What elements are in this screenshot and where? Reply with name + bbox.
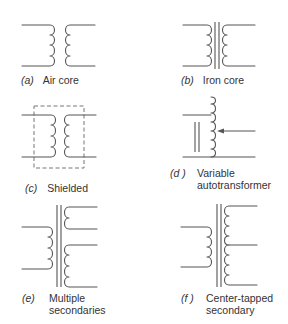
caption-tag: (e)	[22, 292, 49, 304]
caption-text-line1: Center-tapped	[206, 292, 273, 304]
caption-text-line1: Multiple	[49, 292, 85, 304]
caption-text: Iron core	[203, 74, 244, 86]
wiper-arrow-icon	[217, 129, 255, 134]
primary-winding	[22, 25, 55, 66]
secondary-winding-1	[65, 207, 98, 229]
air-core-transformer-symbol	[22, 25, 95, 66]
caption-a: (a) Air core	[21, 74, 79, 86]
iron-core	[215, 22, 219, 69]
caption-text-line2: autotransformer	[170, 179, 271, 191]
iron-core-transformer-symbol	[183, 22, 255, 69]
caption-tag: (d )	[170, 167, 197, 179]
variable-autotransformer-symbol	[183, 97, 255, 157]
caption-c: (c) Shielded	[25, 182, 88, 194]
multiple-secondaries-transformer-symbol	[22, 205, 97, 287]
caption-e: (e)Multiple secondaries	[22, 292, 106, 316]
secondary-winding	[223, 25, 256, 66]
caption-text-line1: Variable	[197, 167, 235, 179]
caption-text: Shielded	[47, 182, 88, 194]
iron-core	[57, 205, 61, 287]
primary-winding	[22, 115, 56, 157]
caption-text: Air core	[43, 74, 79, 86]
primary-winding	[181, 227, 212, 267]
secondary-winding-2	[65, 245, 98, 287]
shielded-transformer-symbol	[22, 106, 96, 168]
center-tapped-secondary-winding	[225, 206, 258, 285]
caption-tag: (f )	[181, 292, 206, 304]
caption-tag: (b)	[181, 74, 194, 86]
iron-core	[195, 122, 199, 152]
caption-tag: (c)	[25, 182, 37, 194]
primary-winding	[22, 227, 53, 269]
winding	[211, 97, 216, 157]
transformer-symbols-diagram	[0, 0, 288, 324]
caption-tag: (a)	[21, 74, 34, 86]
caption-d: (d )Variable autotransformer	[170, 167, 271, 191]
secondary-winding	[66, 25, 96, 66]
center-tapped-transformer-symbol	[181, 204, 257, 287]
caption-b: (b) Iron core	[181, 74, 244, 86]
secondary-winding	[65, 115, 97, 157]
iron-core	[217, 204, 221, 287]
caption-f: (f )Center-tapped secondary	[181, 292, 273, 316]
caption-text-line2: secondary	[181, 304, 273, 316]
primary-winding	[183, 25, 212, 66]
caption-text-line2: secondaries	[22, 304, 106, 316]
